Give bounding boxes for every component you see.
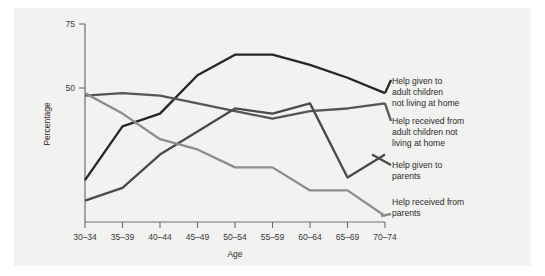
legend-leader-group	[372, 80, 391, 216]
x-tick-label: 70–74	[373, 232, 397, 242]
legend-leader-1	[385, 103, 391, 121]
chart-page: 75 50 30–34 35–39 40–44 45–49 50–54 55–5…	[0, 0, 545, 276]
legend-leader-0	[385, 80, 391, 93]
y-tick-label-75: 75	[66, 19, 76, 29]
x-axis-title: Age	[227, 249, 242, 259]
legend-item-2-line-0: Help given to	[392, 160, 442, 170]
line-chart: 75 50 30–34 35–39 40–44 45–49 50–54 55–5…	[0, 0, 545, 276]
x-tick-label: 45–49	[186, 232, 210, 242]
x-tick-label: 30–34	[73, 232, 97, 242]
legend-item-0-line-2: not living at home	[392, 98, 460, 108]
y-axis-title: Percentage	[42, 102, 52, 146]
y-tick-group: 75 50	[66, 19, 85, 93]
legend-item-1-line-1: adult children not	[392, 127, 458, 137]
x-tick-label: 55–59	[261, 232, 285, 242]
legend-item-0-line-0: Help given to	[392, 76, 442, 86]
x-tick-label: 35–39	[111, 232, 135, 242]
series-line-help-received-adult-children	[85, 93, 385, 119]
legend-item-3-line-1: parents	[392, 208, 421, 218]
series-group	[85, 55, 385, 216]
legend-item-3-line-0: Help received from	[392, 197, 464, 207]
x-tick-group: 30–34 35–39 40–44 45–49 50–54 55–59 60–6…	[73, 222, 397, 242]
legend: Help given to adult children not living …	[392, 76, 464, 218]
x-tick-label: 50–54	[223, 232, 247, 242]
x-tick-label: 40–44	[148, 232, 172, 242]
x-tick-label: 60–64	[298, 232, 322, 242]
legend-item-1-line-2: living at home	[392, 138, 445, 148]
legend-item-0-line-1: adult children	[392, 87, 443, 97]
y-tick-label-50: 50	[66, 83, 76, 93]
legend-item-1-line-0: Help received from	[392, 116, 464, 126]
x-tick-label: 65–69	[336, 232, 360, 242]
legend-item-2-line-1: parents	[392, 171, 421, 181]
